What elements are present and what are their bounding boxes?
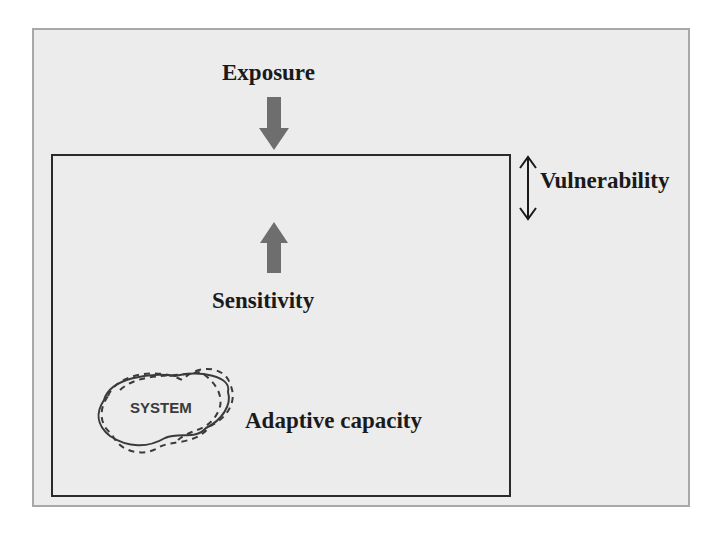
adaptive-capacity-label: Adaptive capacity xyxy=(245,408,422,434)
exposure-arrow-icon xyxy=(259,97,289,150)
diagram-graphics: SYSTEM xyxy=(0,0,718,534)
sensitivity-arrow-icon xyxy=(260,222,288,273)
exposure-label: Exposure xyxy=(222,60,315,86)
vulnerability-double-arrow-icon xyxy=(520,157,536,219)
system-label: SYSTEM xyxy=(130,399,192,416)
system-blob-icon: SYSTEM xyxy=(99,369,233,452)
sensitivity-label: Sensitivity xyxy=(212,288,314,314)
vulnerability-label: Vulnerability xyxy=(540,168,670,194)
